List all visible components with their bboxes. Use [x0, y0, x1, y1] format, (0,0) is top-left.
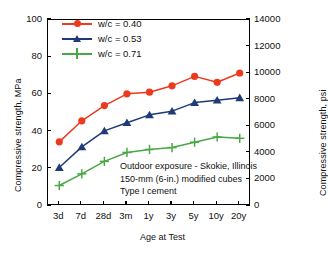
data-point-marker [213, 132, 222, 141]
x-axis-title: Age at Test [0, 232, 325, 242]
legend-triangle-icon [73, 35, 81, 42]
y-tick-label-right: 10000 [254, 67, 294, 77]
y-tick-label-left: 20 [8, 163, 42, 173]
legend-item: w/c = 0.71 [62, 46, 142, 61]
y-tick-label-right: 4000 [254, 147, 294, 157]
legend-item: w/c = 0.40 [62, 16, 142, 31]
x-tick [238, 201, 239, 205]
data-point-marker [123, 90, 130, 97]
y-tick-right [246, 18, 250, 19]
y-tick-left [47, 130, 51, 131]
y-tick-right [246, 72, 250, 73]
data-point-marker [56, 138, 63, 145]
y-tick-right [246, 204, 250, 205]
legend-marker-circle-icon [62, 18, 92, 29]
x-tick [125, 201, 126, 205]
y-tick-left [47, 56, 51, 57]
annotation-line: Outdoor exposure - Skokie, Illinois [120, 160, 257, 173]
series-line [59, 98, 239, 168]
data-point-marker [191, 73, 198, 80]
x-tick [58, 201, 59, 205]
data-point-marker [122, 148, 131, 157]
x-tick [216, 201, 217, 205]
y-tick-right [246, 45, 250, 46]
data-point-marker [146, 89, 153, 96]
y-tick-label-right: 0 [254, 200, 294, 210]
y-tick-left [47, 167, 51, 168]
data-point-marker [167, 143, 176, 152]
x-tick [193, 201, 194, 205]
data-point-marker [168, 82, 175, 89]
x-tick [80, 201, 81, 205]
series-line [59, 73, 239, 142]
data-point-marker [214, 79, 221, 86]
legend: w/c = 0.40w/c = 0.53w/c = 0.71 [62, 16, 142, 61]
y-tick-left [47, 204, 51, 205]
y-tick-label-right: 8000 [254, 94, 294, 104]
y-tick-label-left: 100 [8, 14, 42, 24]
legend-label: w/c = 0.40 [98, 19, 142, 29]
y-tick-label-left: 0 [8, 200, 42, 210]
data-point-marker [145, 145, 154, 154]
legend-label: w/c = 0.53 [98, 34, 142, 44]
y-tick-left [47, 93, 51, 94]
y-tick-label-left: 40 [8, 126, 42, 136]
data-point-marker [77, 169, 86, 178]
y-tick-label-right: 12000 [254, 41, 294, 51]
legend-plus-v-icon [76, 48, 78, 59]
x-tick-label: 20y [222, 211, 256, 221]
data-point-marker [190, 138, 199, 147]
data-point-marker [100, 157, 109, 166]
x-tick [103, 201, 104, 205]
annotation-line: Type I cement [120, 185, 257, 198]
y-axis-title-right: Compressive strength, psi [318, 89, 328, 196]
x-tick [148, 201, 149, 205]
data-point-marker [236, 69, 243, 76]
annotation-line: 150-mm (6-in.) modified cubes [120, 173, 257, 186]
y-tick-label-left: 60 [8, 88, 42, 98]
legend-label: w/c = 0.71 [98, 49, 142, 59]
data-point-marker [78, 117, 85, 124]
y-tick-label-left: 80 [8, 51, 42, 61]
legend-marker-plus-icon [62, 48, 92, 59]
data-point-marker [101, 102, 108, 109]
y-tick-right [246, 98, 250, 99]
legend-circle-icon [74, 20, 81, 27]
legend-item: w/c = 0.53 [62, 31, 142, 46]
annotation-block: Outdoor exposure - Skokie, Illinois150-m… [120, 160, 257, 198]
data-point-marker [55, 181, 64, 190]
y-tick-label-right: 6000 [254, 120, 294, 130]
y-tick-label-right: 2000 [254, 173, 294, 183]
y-tick-left [47, 18, 51, 19]
x-tick [170, 201, 171, 205]
y-tick-right [246, 125, 250, 126]
data-point-marker [235, 134, 244, 143]
y-tick-label-right: 14000 [254, 14, 294, 24]
legend-marker-triangle-icon [62, 33, 92, 44]
y-tick-right [246, 151, 250, 152]
